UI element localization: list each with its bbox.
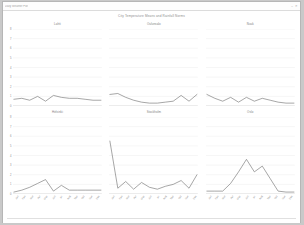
y-tick-label: 0 [10,105,11,108]
plot-area [109,117,198,194]
series-canvas [109,29,198,106]
close-icon[interactable]: ✕ [295,5,298,8]
subplot-lahti: Lahti [13,22,102,106]
plot-area [206,117,295,194]
x-tick-label: Oct [178,195,183,200]
x-axis-labels: JanFebMarAprMayJunJulAugSepOctNovDec Jan… [13,195,295,225]
x-tick-label: Mar [29,195,34,200]
x-tick-label: Mar [222,195,227,200]
data-series-line [207,159,294,192]
window-controls: – ✕ [291,5,298,8]
series-canvas [13,29,102,106]
subplot-oslo: Oslo [206,110,295,194]
plot-window: Daily Weather Plot – ✕ City Temperature … [2,1,301,223]
x-tick-label: Feb [22,195,27,200]
y-tick-label: 3 [10,164,11,167]
y-tick-label: 7 [10,37,11,40]
x-tick-label: Jan [111,195,116,200]
subplot-title: Oulunsalo [109,22,198,26]
plot-area [13,117,102,194]
plot-area [109,29,198,106]
x-tick-label: May [140,195,145,201]
figure-title: City Temperature Means and Rainfall Norm… [3,14,300,18]
subplot-title: Oslo [206,110,295,114]
figure-bottom-rule [7,218,296,219]
x-tick-label: Sep [170,195,175,200]
series-canvas [206,29,295,106]
y-tick-label: 8 [10,28,11,31]
y-tick-label: 0 [10,193,11,196]
window-title: Daily Weather Plot [5,5,28,8]
y-tick-label: 5 [10,56,11,59]
y-tick-label: 5 [10,144,11,147]
x-axis-band: JanFebMarAprMayJunJulAugSepOctNovDec [109,195,198,225]
y-tick-label: 3 [10,76,11,79]
x-tick-label: Dec [289,195,294,200]
x-tick-label: May [237,195,242,201]
data-series-line [110,93,197,103]
y-tick-label: 2 [10,173,11,176]
x-tick-label: May [44,195,49,201]
y-tick-label: 6 [10,47,11,50]
x-tick-label: Oct [81,195,86,200]
data-series-line [14,180,101,193]
x-tick-label: Aug [66,195,71,200]
x-tick-label: Apr [37,195,42,200]
x-tick-label: Aug [259,195,264,200]
x-tick-label: Apr [133,195,138,200]
subplot-stockholm: Stockholm [109,110,198,194]
x-tick-label: Sep [73,195,78,200]
x-tick-label: Nov [281,195,286,200]
x-tick-label: Jul [59,195,63,199]
y-tick-label: 8 [10,116,11,119]
x-tick-label: Aug [163,195,168,200]
x-tick-label: Jun [244,195,249,200]
subplot-title: Stockholm [109,110,198,114]
y-tick-label: 7 [10,125,11,128]
x-tick-label: Dec [96,195,101,200]
y-tick-label: 6 [10,135,11,138]
y-tick-label: 1 [10,183,11,186]
x-tick-label: Jan [207,195,212,200]
x-tick-label: Feb [118,195,123,200]
x-tick-label: Dec [192,195,197,200]
y-tick-label: 1 [10,95,11,98]
y-axis: 012345678012345678 [3,22,13,223]
x-tick-label: Nov [88,195,93,200]
x-tick-label: Jun [148,195,153,200]
subplot-row-1: Lahti Oulunsalo Nuuk [13,22,295,106]
subplot-title: Nuuk [206,22,295,26]
series-canvas [13,117,102,194]
figure-canvas: City Temperature Means and Rainfall Norm… [3,11,300,223]
y-tick-label: 4 [10,154,11,157]
subplot-nuuk: Nuuk [206,22,295,106]
x-tick-label: Oct [274,195,279,200]
y-tick-label: 2 [10,85,11,88]
x-tick-label: Jan [14,195,19,200]
x-axis-band: JanFebMarAprMayJunJulAugSepOctNovDec [13,195,102,225]
data-series-line [207,94,294,103]
x-tick-label: Jul [156,195,160,199]
x-tick-label: Sep [266,195,271,200]
x-tick-label: Apr [230,195,235,200]
y-tick-label: 4 [10,66,11,69]
x-axis-band: JanFebMarAprMayJunJulAugSepOctNovDec [206,195,295,225]
x-tick-label: Jun [52,195,57,200]
plot-area [13,29,102,106]
subplot-oulunsalo: Oulunsalo [109,22,198,106]
series-canvas [109,117,198,194]
window-titlebar: Daily Weather Plot – ✕ [3,2,300,11]
x-tick-label: Jul [252,195,256,199]
x-tick-label: Nov [185,195,190,200]
subplot-helsinki: Helsinki [13,110,102,194]
subplot-title: Helsinki [13,110,102,114]
subplot-title: Lahti [13,22,102,26]
x-tick-label: Mar [126,195,131,200]
plot-area [206,29,295,106]
subplot-row-2: Helsinki Stockholm Oslo [13,110,295,194]
series-canvas [206,117,295,194]
x-tick-label: Feb [215,195,220,200]
minimize-icon[interactable]: – [291,5,293,8]
subplot-grid: Lahti Oulunsalo Nuuk [13,22,295,223]
